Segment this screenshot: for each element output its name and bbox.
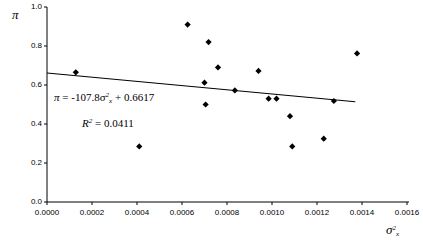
- data-point: [289, 143, 295, 149]
- r-squared-exponent: 2: [89, 117, 93, 125]
- x-axis-tick-label: 0.0014: [340, 208, 384, 217]
- y-axis-tick-label: 0.4: [10, 119, 42, 128]
- equation-equals: =: [62, 91, 68, 103]
- data-point: [73, 69, 79, 75]
- x-axis-tick-label: 0.0008: [205, 208, 249, 217]
- r-squared-symbol: R: [82, 117, 89, 129]
- r-squared-annotation: R2 = 0.0411: [82, 117, 134, 129]
- data-point: [215, 64, 221, 70]
- data-point: [232, 87, 238, 93]
- x-axis-title: σ2x: [386, 222, 399, 238]
- x-axis-tick-label: 0.0010: [250, 208, 294, 217]
- data-point: [354, 50, 360, 56]
- data-point: [266, 96, 272, 102]
- data-point: [205, 39, 211, 45]
- equation-pi-symbol: π: [54, 91, 60, 103]
- y-axis-tick-label: 0.0: [10, 197, 42, 206]
- equation-slope: -107.8: [71, 91, 99, 103]
- r-squared-equals: =: [95, 117, 101, 129]
- regression-equation-annotation: π = -107.8σ2x + 0.6617: [54, 91, 154, 105]
- data-point: [201, 80, 207, 86]
- y-axis-tick-label: 0.2: [10, 158, 42, 167]
- x-axis-tick-label: 0.0004: [115, 208, 159, 217]
- x-axis-tick-label: 0.0012: [295, 208, 339, 217]
- data-point: [273, 96, 279, 102]
- data-point: [136, 143, 142, 149]
- x-axis-tick-label: 0.0016: [385, 208, 423, 217]
- data-point: [203, 101, 209, 107]
- y-axis-title: π: [12, 7, 19, 23]
- x-axis-sigma-subscript: x: [396, 230, 399, 238]
- data-point: [255, 68, 261, 74]
- r-squared-value: 0.0411: [104, 117, 134, 129]
- scatter-chart: 0.00.20.40.60.81.0 0.00000.00020.00040.0…: [0, 0, 423, 252]
- data-point: [321, 136, 327, 142]
- y-axis-tick-label: 0.6: [10, 80, 42, 89]
- data-point: [331, 98, 337, 104]
- x-axis-tick-label: 0.0000: [25, 208, 69, 217]
- x-axis-tick-label: 0.0006: [160, 208, 204, 217]
- data-point: [287, 113, 293, 119]
- data-point: [185, 21, 191, 27]
- equation-intercept: 0.6617: [124, 91, 154, 103]
- data-points: [73, 21, 360, 149]
- x-axis-tick-label: 0.0002: [70, 208, 114, 217]
- equation-plus: +: [115, 91, 121, 103]
- equation-sigma-subscript: x: [109, 97, 112, 105]
- y-axis-tick-label: 0.8: [10, 41, 42, 50]
